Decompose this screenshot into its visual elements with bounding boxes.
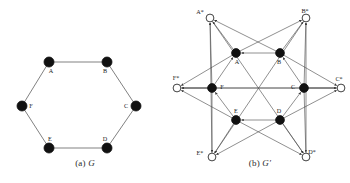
graph-b-star-edge-B-Bstar (282, 22, 303, 50)
figure-panel-b: ABCDEFA*B*C*D*E*F* (b) G′ (170, 0, 350, 183)
graph-b-node-label-Estar: E* (197, 149, 204, 156)
graph-b-node-label-E: E (234, 107, 238, 114)
graph-b-star-edge-C-Bstar (304, 23, 306, 85)
graph-a-edge-B-C (109, 65, 134, 103)
graph-b-star-edge-E-Fstar (181, 90, 233, 118)
graph-b-node-Astar[interactable] (206, 14, 214, 22)
graph-b-star-edge-B-Cstar (283, 55, 337, 86)
graph-b-node-Bstar[interactable] (302, 14, 310, 22)
graph-a-node-A[interactable] (44, 57, 54, 67)
graph-b-inner-edge-F-A (214, 57, 233, 85)
caption-figure-a: (a) G (0, 158, 170, 168)
graph-a-nodes (17, 57, 141, 153)
graph-b-node-F[interactable] (208, 84, 217, 93)
graph-b-star-edge-A-Fstar (181, 55, 233, 86)
graph-b-star-edge-D-Cstar (283, 90, 336, 118)
graph-b-inner-edges (214, 53, 302, 120)
graph-a-canvas: ABCDEF (0, 0, 170, 183)
graph-b-node-label-D: D (277, 107, 282, 114)
graph-b-node-label-B: B (277, 58, 281, 65)
graph-a-edge-C-D (109, 109, 134, 145)
caption-b-prefix: (b) (249, 158, 260, 168)
graph-a-labels: ABCDEF (29, 67, 128, 142)
graph-b-star-edge-A-Bstar (239, 20, 301, 51)
graph-a-node-B[interactable] (102, 57, 112, 67)
graph-b-node-B[interactable] (276, 49, 285, 58)
graph-b-node-D[interactable] (276, 116, 285, 125)
graph-a-node-D[interactable] (102, 143, 112, 153)
graph-a-node-label-A: A (49, 67, 54, 74)
graph-b-node-label-Bstar: B* (301, 7, 308, 14)
graph-b-node-label-F: F (220, 83, 224, 90)
graph-a-edge-F-A (24, 65, 47, 103)
caption-figure-b: (b) G′ (170, 158, 350, 168)
graph-a-edges (24, 62, 134, 148)
graph-b-node-label-Fstar: F* (173, 74, 180, 81)
graph-b-node-label-Cstar: C* (335, 75, 342, 82)
graph-a-edge-E-F (24, 109, 47, 145)
graph-b-node-Cstar[interactable] (337, 84, 345, 92)
graph-b-canvas: ABCDEFA*B*C*D*E*F* (170, 0, 350, 183)
caption-a-symbol: G (88, 158, 95, 168)
caption-b-symbol: G′ (262, 158, 271, 168)
graph-a-node-F[interactable] (17, 101, 27, 111)
graph-a-node-label-B: B (103, 67, 107, 74)
graph-a-node-label-F: F (29, 102, 33, 109)
graph-b-star-edge-C-Dstar (304, 92, 306, 153)
graph-a-node-label-D: D (103, 135, 108, 142)
figure-root: ABCDEF (a) G ABCDEFA*B*C*D*E*F* (b) G′ (0, 0, 350, 183)
graph-b-node-label-C: C (291, 83, 295, 90)
graph-b-node-label-Astar: A* (196, 8, 204, 15)
graph-b-inner-edge-C-B (283, 57, 302, 85)
graph-b-star-edges (180, 20, 338, 155)
figure-panel-a: ABCDEF (a) G (0, 0, 170, 183)
graph-b-inner-edge-D-C (282, 92, 301, 117)
graph-b-node-E[interactable] (232, 116, 241, 125)
graph-b-node-A[interactable] (232, 49, 241, 58)
graph-a-node-E[interactable] (44, 143, 54, 153)
graph-b-star-edge-E-Dstar (239, 122, 301, 155)
graph-b-star-edge-D-Estar (216, 122, 277, 155)
graph-b-labels: ABCDEFA*B*C*D*E*F* (173, 7, 343, 156)
graph-b-inner-edge-E-F (215, 92, 234, 117)
graph-b-node-C[interactable] (300, 84, 309, 93)
graph-b-node-label-A: A (235, 58, 240, 65)
graph-b-star-edge-B-Astar (214, 20, 276, 51)
graph-a-node-label-E: E (48, 135, 52, 142)
graph-b-node-label-Dstar: D* (308, 148, 316, 155)
caption-a-prefix: (a) (75, 158, 86, 168)
graph-b-node-Fstar[interactable] (173, 84, 181, 92)
graph-b-star-edge-A-Astar (213, 22, 234, 50)
graph-a-node-label-C: C (124, 102, 128, 109)
graph-a-node-C[interactable] (131, 101, 141, 111)
